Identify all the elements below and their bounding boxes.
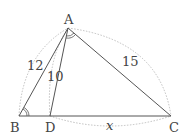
angle-mark-b-outer xyxy=(24,108,29,117)
geometry-diagram: A B D C 12 10 15 x xyxy=(0,0,187,139)
vertex-label-a: A xyxy=(63,12,74,27)
vertex-label-c: C xyxy=(169,120,179,135)
angle-mark-a-inner xyxy=(67,33,75,36)
angle-mark-b-inner xyxy=(23,109,27,116)
vertex-label-b: B xyxy=(10,120,20,135)
segment-label-dc: x xyxy=(106,118,114,133)
segment-ac xyxy=(68,28,171,116)
segment-label-ac: 15 xyxy=(122,54,139,69)
segment-label-ad: 10 xyxy=(47,69,64,84)
vertex-label-d: D xyxy=(45,120,55,135)
segment-label-ab: 12 xyxy=(27,58,44,73)
